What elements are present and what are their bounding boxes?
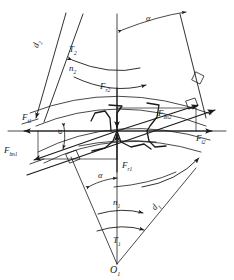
angle-arc-top (122, 12, 186, 30)
gear2-pitch-arc (36, 109, 206, 126)
label-speed-2: n2 (69, 64, 76, 75)
angle-arc-bottom (90, 178, 117, 186)
label-angle-top: α (146, 14, 150, 23)
gear2-addendum-arc (30, 96, 211, 114)
label-angle-bottom: α (98, 171, 102, 180)
rotation-arrows-gear1 (97, 210, 144, 231)
label-radial-force-1: Fr1 (122, 161, 132, 172)
label-torque-1: T1 (113, 236, 121, 247)
label-normal-force-2: Fbn2 (158, 109, 171, 120)
radial-lines (71, 14, 196, 264)
label-normal-force-1: Fbn1 (4, 146, 17, 157)
label-torque-2: T2 (69, 45, 77, 56)
label-tangential-force-1: Ft1 (22, 113, 31, 124)
right-angle-mark-upper (192, 72, 204, 84)
gear2-teeth (91, 103, 159, 131)
radial-left (71, 157, 117, 264)
label-speed-1: n1 (113, 198, 120, 209)
label-angle-mid: α (55, 130, 64, 134)
gear-force-diagram: d2 T2 n2 α Fr2 Ft1 Ft2 Fbn2 Fbn1 α Fr1 α (0, 0, 234, 280)
gear1-arcs (38, 128, 210, 187)
label-center-point: O1 (110, 265, 120, 277)
radial-right-d1 (117, 168, 196, 264)
vector-Fbn1 (34, 131, 117, 160)
label-radial-force-2: Fr2 (100, 82, 110, 93)
gear1-root-arc (114, 172, 176, 187)
label-tangential-force-2: Ft2 (196, 134, 205, 145)
gear2-right-edge (180, 14, 206, 118)
leader-d1 (142, 158, 199, 187)
